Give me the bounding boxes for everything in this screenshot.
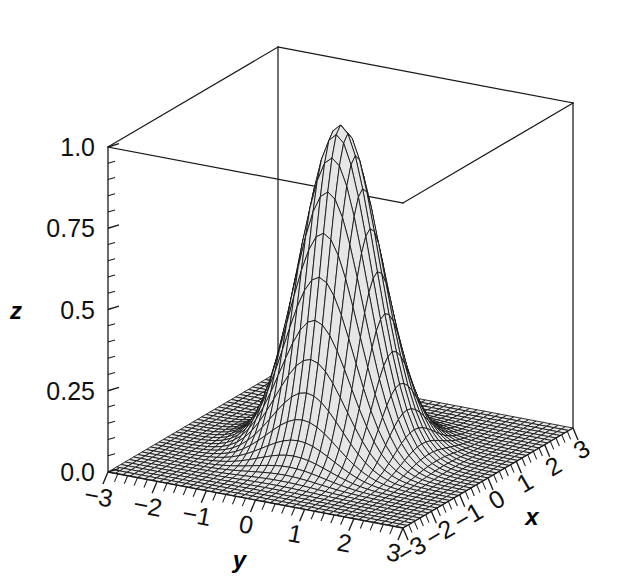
- plot-canvas: 1.00.750.50.250.0z−3−2−10123y−3−2−10123x: [0, 0, 631, 585]
- z-tick-label-0-75: 0.75: [46, 214, 95, 242]
- z-tick-label-1-0: 1.0: [60, 133, 95, 161]
- x-axis-title: x: [523, 503, 540, 530]
- y-tick-label-neg2: −2: [131, 489, 164, 522]
- z-tick-label-0-25: 0.25: [46, 377, 95, 405]
- surface-plot-figure: 1.00.750.50.250.0z−3−2−10123y−3−2−10123x…: [0, 0, 631, 585]
- y-tick-label-neg1: −1: [180, 498, 213, 531]
- z-tick-label-0-5: 0.5: [60, 296, 95, 324]
- z-axis-title: z: [9, 297, 22, 324]
- y-tick-label-neg3: −3: [82, 480, 115, 513]
- y-axis-title: y: [232, 546, 248, 573]
